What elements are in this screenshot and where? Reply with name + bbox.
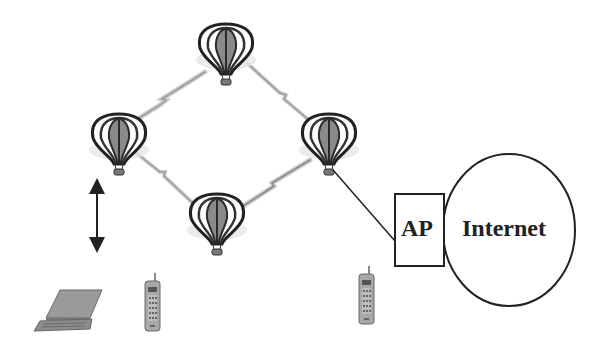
- balloon-bottom-icon: [187, 194, 247, 255]
- wired-link-balloon-to-ap: [333, 170, 395, 241]
- network-diagram: AP Internet: [0, 0, 603, 346]
- wireless-link-bottom-right: [240, 160, 310, 208]
- balloon-right-icon: [299, 114, 359, 175]
- wireless-link-left-bottom: [135, 152, 198, 208]
- balloon-left-icon: [89, 114, 149, 175]
- wireless-link-left-top: [128, 72, 205, 125]
- internet-label: Internet: [462, 215, 546, 242]
- access-point-label: AP: [401, 215, 433, 242]
- double-arrow-vertical-icon: [89, 178, 105, 253]
- wireless-link-top-right: [248, 64, 316, 126]
- mobile-phone-right-icon: [359, 266, 374, 324]
- balloon-top-icon: [196, 24, 256, 85]
- laptop-icon: [34, 290, 102, 331]
- mobile-phone-left-icon: [145, 273, 160, 331]
